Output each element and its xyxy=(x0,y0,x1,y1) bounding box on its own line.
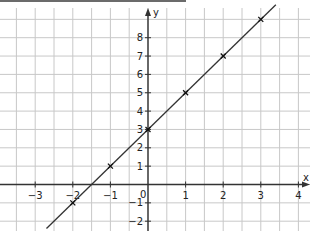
x-tick-label: −1 xyxy=(103,190,118,201)
y-tick-label: 4 xyxy=(137,106,143,117)
y-tick-label: 6 xyxy=(137,69,143,80)
y-tick-label: 3 xyxy=(137,124,143,135)
coordinate-plot: x y 0 −3−2−11234−2−112345678 xyxy=(0,0,310,231)
x-tick-label: −3 xyxy=(28,190,43,201)
x-tick-label: 2 xyxy=(220,190,226,201)
x-tick-label: 1 xyxy=(182,190,188,201)
y-axis-label: y xyxy=(153,7,159,18)
x-axis-label: x xyxy=(303,172,309,183)
y-tick-label: −2 xyxy=(128,216,143,227)
x-tick-label: 3 xyxy=(258,190,264,201)
y-tick-label: 2 xyxy=(137,142,143,153)
y-axis-arrow-icon xyxy=(145,8,151,16)
line-y-equals-2x-plus-3 xyxy=(46,5,275,229)
y-tick-label: −1 xyxy=(128,197,143,208)
y-tick-label: 5 xyxy=(137,87,143,98)
x-tick-label: −2 xyxy=(65,190,80,201)
y-tick-label: 8 xyxy=(137,32,143,43)
data-series xyxy=(46,5,275,229)
y-tick-label: 7 xyxy=(137,51,143,62)
y-tick-label: 1 xyxy=(137,161,143,172)
x-tick-label: 4 xyxy=(295,190,301,201)
